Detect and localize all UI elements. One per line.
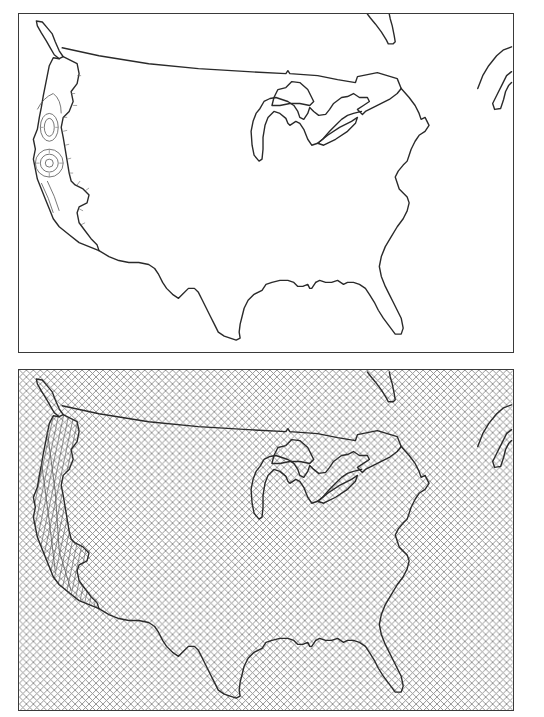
atlantic-coast <box>316 89 429 335</box>
lake-erie-ontario <box>318 117 358 145</box>
vancouver-island <box>36 21 63 59</box>
james-bay <box>367 14 395 44</box>
us-outline-map-top <box>19 14 513 352</box>
coastline-and-border <box>33 14 511 340</box>
crosshatch-fill <box>19 370 512 710</box>
gulf-coast <box>99 251 316 340</box>
pacific-region-boundary <box>61 57 99 251</box>
map-panel-bottom: Contiguous United States outline map wit… <box>18 369 514 711</box>
us-outline-map-bottom <box>19 370 513 710</box>
gaspe-maritime <box>493 72 512 110</box>
map-panel-top: Contiguous United States outline map wit… <box>18 13 514 353</box>
lake-superior <box>272 82 314 106</box>
st-lawrence-north <box>478 47 512 89</box>
northern-border <box>62 48 401 89</box>
